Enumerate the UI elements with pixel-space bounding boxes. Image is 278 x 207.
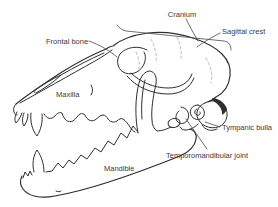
tympanic-bulla-leader <box>205 122 220 127</box>
suture-line-1 <box>151 39 156 62</box>
skull-illustration: Cranium Sagittal crest Frontal bone Maxi… <box>0 0 278 207</box>
lower-canine <box>33 150 44 172</box>
upper-teeth-group <box>15 112 135 136</box>
tmj-fossa-hook <box>176 107 189 123</box>
frontal-bone-label: Frontal bone <box>46 37 88 46</box>
maxilla-label: Maxilla <box>56 90 80 99</box>
sagittal-crest-label: Sagittal crest <box>222 27 266 36</box>
mandible-label: Mandible <box>104 164 134 173</box>
nasal-ridge <box>34 53 104 93</box>
chin-mark <box>56 191 61 192</box>
skull-diagram: Cranium Sagittal crest Frontal bone Maxi… <box>0 0 278 207</box>
orbit-outline <box>118 47 147 74</box>
ear-region-group <box>176 98 227 130</box>
infraorbital-mark <box>91 85 93 95</box>
temporomandibular-joint-label: Temporomandibular joint <box>166 151 249 160</box>
mandible-group <box>21 71 197 197</box>
cranium-label: Cranium <box>168 10 196 19</box>
suture-line-4 <box>136 52 139 69</box>
lower-incisors <box>23 171 32 178</box>
bulla-to-jaw-line <box>180 124 198 130</box>
upper-canine <box>31 113 43 136</box>
tmj-leader <box>186 119 207 149</box>
cranium-bracket <box>117 25 231 50</box>
ramus-inner-line <box>142 80 145 119</box>
tympanic-bulla-label: Tympanic bulla <box>222 123 273 132</box>
upper-incisors <box>15 112 28 126</box>
suture-line-2 <box>177 37 181 58</box>
leader-lines-group <box>89 19 231 149</box>
suture-line-3 <box>206 58 212 83</box>
upper-molar-row <box>44 113 135 132</box>
